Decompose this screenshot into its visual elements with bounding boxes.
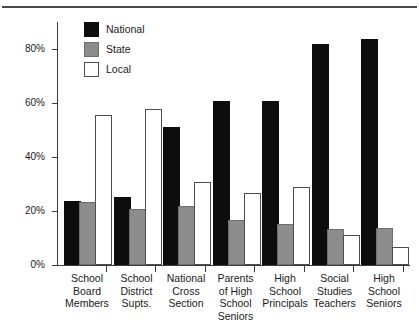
bar-state xyxy=(178,206,195,265)
plot-area: 0%20%40%60%80% SchoolBoardMembersSchoolD… xyxy=(57,22,410,266)
category-label-line: High xyxy=(353,272,415,285)
bar-local xyxy=(392,247,409,265)
bar-state xyxy=(228,220,245,265)
bar-group xyxy=(312,22,360,265)
bar-group xyxy=(163,22,211,265)
bar-chart-figure: National State Local 0%20%40%60%80% Scho… xyxy=(0,0,419,329)
bar-local xyxy=(145,109,162,265)
bar-local xyxy=(244,193,261,265)
y-axis-tick: 20% xyxy=(52,211,57,212)
bar-group xyxy=(114,22,162,265)
category-label-line: Seniors xyxy=(353,297,415,310)
top-divider-rule xyxy=(2,6,417,8)
y-axis-tick-label: 40% xyxy=(25,150,45,163)
category-label-line: Seniors xyxy=(205,310,267,323)
y-axis-tick: 40% xyxy=(52,157,57,158)
bar-local xyxy=(293,187,310,265)
y-axis-tick: 80% xyxy=(52,49,57,50)
bar-group xyxy=(213,22,261,265)
bar-group xyxy=(64,22,112,265)
bar-group xyxy=(262,22,310,265)
y-axis-line xyxy=(57,22,58,266)
y-axis-tick-label: 0% xyxy=(31,258,45,271)
y-axis-tick: 60% xyxy=(52,103,57,104)
bar-state xyxy=(327,229,344,265)
bar-state xyxy=(129,209,146,265)
x-axis-line xyxy=(57,265,410,266)
bar-local xyxy=(194,182,211,265)
y-axis-tick-label: 80% xyxy=(25,42,45,55)
bar-group xyxy=(361,22,409,265)
bar-state xyxy=(277,224,294,265)
y-axis-tick: 0% xyxy=(52,265,57,266)
bar-state xyxy=(79,202,96,265)
category-label-line: School xyxy=(353,285,415,298)
x-axis-category-label: HighSchoolSeniors xyxy=(353,272,415,310)
y-axis-tick-label: 20% xyxy=(25,204,45,217)
y-axis-tick-label: 60% xyxy=(25,96,45,109)
bar-state xyxy=(376,228,393,265)
bar-local xyxy=(343,235,360,265)
bar-local xyxy=(95,115,112,266)
